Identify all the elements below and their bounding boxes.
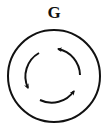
cycle-diagram [0,0,108,131]
left-arrow-icon [25,53,39,88]
top-right-arrow-icon [58,49,80,75]
outer-circle [8,30,100,122]
bottom-arrow-icon [40,91,74,103]
